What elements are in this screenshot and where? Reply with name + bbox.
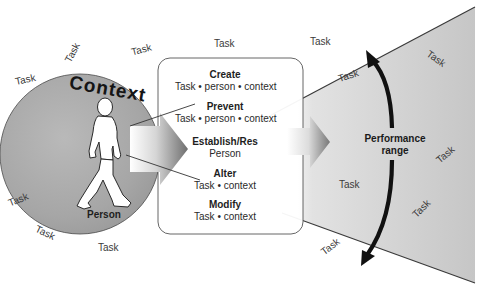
person-label: Person	[87, 209, 121, 220]
task-label: Task	[310, 36, 331, 47]
performance-diagram: Context Person Create Task • person • co…	[0, 0, 479, 287]
prevent-title: Prevent	[195, 101, 255, 112]
task-label: Task	[98, 242, 119, 253]
alter-sub: Task • context	[190, 180, 260, 191]
performance-line1: Performance	[360, 133, 430, 145]
performance-line2: range	[360, 145, 430, 157]
create-title: Create	[195, 69, 255, 80]
establish-sub: Person	[195, 148, 255, 159]
modify-title: Modify	[195, 199, 255, 210]
prevent-sub: Task • person • context	[175, 113, 275, 124]
task-label: Task	[339, 179, 360, 190]
establish-title: Establish/Res	[185, 136, 265, 147]
create-sub: Task • person • context	[175, 81, 275, 92]
alter-title: Alter	[200, 168, 250, 179]
modify-sub: Task • context	[190, 211, 260, 222]
performance-range-label: Performance range	[360, 133, 430, 157]
task-label: Task	[214, 38, 235, 49]
